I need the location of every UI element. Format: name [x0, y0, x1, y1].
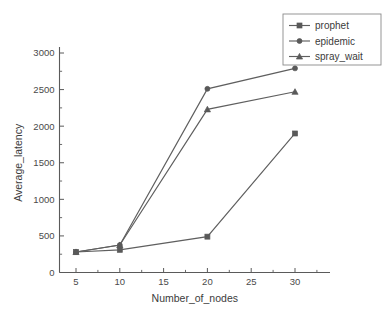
- legend-label: spray_wait: [315, 51, 363, 62]
- data-point: [205, 234, 210, 239]
- x-axis-title: Number_of_nodes: [152, 292, 238, 304]
- line-chart: 050010001500200025003000 51015202530 Ave…: [0, 0, 384, 326]
- y-axis-title: Average_latency: [12, 123, 24, 202]
- legend-marker-prophet: [297, 23, 302, 28]
- legend-label: prophet: [315, 20, 349, 31]
- y-tick-label: 1000: [33, 194, 54, 205]
- y-tick-label: 2000: [33, 121, 54, 132]
- series-spray_wait: [73, 89, 298, 255]
- y-tick-label: 1500: [33, 157, 54, 168]
- x-tick-label: 25: [246, 276, 257, 287]
- y-tick-label: 500: [39, 230, 55, 241]
- y-tick-label: 0: [49, 267, 54, 278]
- legend-label: epidemic: [315, 36, 355, 47]
- chart-legend: prophetepidemicspray_wait: [283, 14, 381, 65]
- y-tick-label: 3000: [33, 47, 54, 58]
- series-epidemic: [74, 66, 298, 255]
- y-tick-label: 2500: [33, 84, 54, 95]
- data-point: [293, 66, 298, 71]
- data-point: [292, 89, 298, 95]
- x-tick-label: 30: [290, 276, 301, 287]
- x-tick-label: 10: [115, 276, 126, 287]
- data-point: [205, 86, 210, 91]
- x-tick-label: 20: [202, 276, 213, 287]
- series-line-epidemic: [76, 68, 295, 252]
- series-prophet: [74, 131, 298, 255]
- data-point: [117, 247, 122, 252]
- x-axis-ticks: 51015202530: [73, 268, 300, 287]
- x-tick-label: 5: [73, 276, 78, 287]
- data-point: [293, 131, 298, 136]
- legend-marker-epidemic: [297, 39, 302, 44]
- x-tick-label: 15: [158, 276, 169, 287]
- chart-container: 050010001500200025003000 51015202530 Ave…: [0, 0, 384, 326]
- series-line-prophet: [76, 133, 295, 252]
- series-group: [73, 66, 298, 255]
